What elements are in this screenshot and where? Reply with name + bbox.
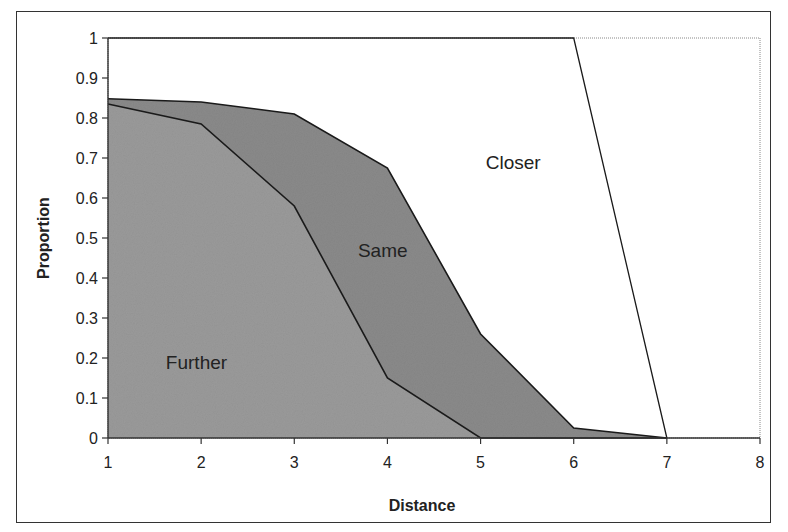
y-tick-label: 0.7	[76, 150, 98, 167]
x-tick-label: 2	[197, 454, 206, 471]
x-tick-label: 4	[383, 454, 392, 471]
y-tick-label: 0.6	[76, 190, 98, 207]
y-tick-label: 1	[89, 30, 98, 47]
x-tick-label: 7	[662, 454, 671, 471]
region-label-closer: Closer	[486, 152, 542, 173]
region-label-further: Further	[166, 352, 228, 373]
y-tick-label: 0.2	[76, 350, 98, 367]
x-tick-label: 6	[569, 454, 578, 471]
y-axis-title: Proportion	[35, 197, 52, 279]
y-tick-label: 0.4	[76, 270, 98, 287]
y-tick-label: 0.8	[76, 110, 98, 127]
x-tick-label: 1	[104, 454, 113, 471]
region-label-same: Same	[358, 240, 408, 261]
plot-area	[108, 38, 760, 438]
x-tick-label: 5	[476, 454, 485, 471]
y-tick-label: 0.9	[76, 70, 98, 87]
stacked-area-chart: 00.10.20.30.40.50.60.70.80.9112345678 Di…	[0, 0, 788, 532]
x-axis-title: Distance	[389, 497, 456, 514]
y-tick-label: 0.5	[76, 230, 98, 247]
y-tick-label: 0.3	[76, 310, 98, 327]
y-tick-label: 0	[89, 430, 98, 447]
x-tick-label: 3	[290, 454, 299, 471]
x-tick-label: 8	[756, 454, 765, 471]
y-tick-label: 0.1	[76, 390, 98, 407]
